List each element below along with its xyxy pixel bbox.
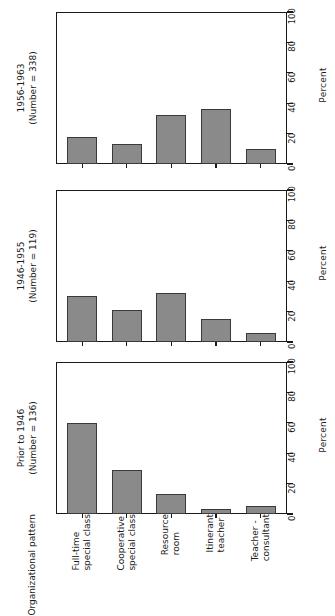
panel-title-line2: (Number = 136) (27, 401, 39, 475)
x-label-line2: teacher (216, 514, 227, 552)
x-label-line2: special class (127, 514, 138, 571)
x-label-teacher-consultant: Teacher - consultant (228, 514, 294, 580)
panel-plot-prior-to-1946 (56, 362, 287, 514)
x-label-line2: special class (82, 514, 93, 571)
y-tick-label-100: 100 (288, 186, 297, 202)
x-label-line2: room (171, 514, 182, 555)
y-axis-percent-prior-to-1946: 020406080100 (287, 362, 301, 514)
y-tick-label-40: 40 (288, 452, 297, 463)
x-tick-3 (215, 342, 216, 346)
bar-group-1956-1963 (56, 12, 287, 164)
panel-plot-1946-1955 (56, 190, 287, 342)
bar-full-time-special-class[interactable] (67, 423, 97, 514)
x-label-line1: Full-time (71, 514, 82, 571)
x-tick-0 (82, 342, 83, 346)
bar-group-prior-to-1946 (56, 362, 287, 514)
bar-resource-room[interactable] (156, 293, 186, 342)
y-tick-0 (287, 341, 293, 342)
y-tick-label-40: 40 (288, 102, 297, 113)
x-label-line1: Cooperative (116, 514, 127, 571)
y-axis-title: Percent (318, 245, 328, 280)
y-tick-label-40: 40 (288, 280, 297, 291)
y-axis-title: Percent (318, 67, 328, 102)
x-tick-4 (260, 342, 261, 346)
bar-teacher-consultant[interactable] (246, 149, 276, 164)
y-tick-label-0: 0 (288, 344, 297, 349)
y-tick-label-20: 20 (288, 482, 297, 493)
panel-title-line1: 1946-1955 (15, 229, 27, 303)
y-tick-label-20: 20 (288, 310, 297, 321)
x-tick-1 (126, 342, 127, 346)
bar-group-1946-1955 (56, 190, 287, 342)
y-tick-label-100: 100 (288, 358, 297, 374)
panel-title-line1: Prior to 1946 (15, 401, 27, 475)
bar-resource-room[interactable] (156, 494, 186, 514)
bar-teacher-consultant[interactable] (246, 333, 276, 342)
y-tick-0 (287, 163, 293, 164)
y-tick-label-20: 20 (288, 132, 297, 143)
bar-itinerant-teacher[interactable] (201, 109, 231, 164)
y-tick-label-0: 0 (288, 166, 297, 171)
y-axis-title: Percent (318, 417, 328, 452)
panel-title-line2: (Number = 338) (27, 51, 39, 125)
x-label-line2: consultant (261, 514, 272, 561)
y-tick-label-80: 80 (288, 41, 297, 52)
panel-plot-1956-1963 (56, 12, 287, 164)
x-tick-4 (260, 164, 261, 168)
x-axis-category-labels: Full-time special class Cooperative spec… (0, 514, 335, 580)
x-tick-marks (56, 342, 287, 346)
bar-full-time-special-class[interactable] (67, 296, 97, 342)
x-tick-2 (171, 164, 172, 168)
bar-cooperative-special-class[interactable] (112, 310, 142, 342)
x-tick-2 (171, 342, 172, 346)
x-tick-1 (126, 164, 127, 168)
y-axis-percent-1946-1955: 020406080100 (287, 190, 301, 342)
y-tick-label-60: 60 (288, 422, 297, 433)
panel-title-1956-1963: 1956-1963 (Number = 338) (0, 12, 54, 164)
x-tick-0 (82, 164, 83, 168)
panel-title-line2: (Number = 119) (27, 229, 39, 303)
y-tick-label-60: 60 (288, 72, 297, 83)
bar-cooperative-special-class[interactable] (112, 144, 142, 164)
x-label-line1: Resource (160, 514, 171, 555)
x-tick-3 (215, 164, 216, 168)
bar-teacher-consultant[interactable] (246, 506, 276, 514)
x-label-line1: Teacher - (250, 514, 261, 561)
y-tick-label-80: 80 (288, 391, 297, 402)
bar-resource-room[interactable] (156, 115, 186, 164)
x-tick-marks (56, 164, 287, 168)
x-label-line1: Itinerant (205, 514, 216, 552)
panel-title-1946-1955: 1946-1955 (Number = 119) (0, 190, 54, 342)
bar-itinerant-teacher[interactable] (201, 319, 231, 342)
panel-title-prior-to-1946: Prior to 1946 (Number = 136) (0, 362, 54, 514)
panel-title-line1: 1956-1963 (15, 51, 27, 125)
y-axis-percent-1956-1963: 020406080100 (287, 12, 301, 164)
y-tick-label-60: 60 (288, 250, 297, 261)
y-tick-label-80: 80 (288, 219, 297, 230)
bar-cooperative-special-class[interactable] (112, 470, 142, 514)
y-tick-label-100: 100 (288, 8, 297, 24)
bar-full-time-special-class[interactable] (67, 137, 97, 164)
